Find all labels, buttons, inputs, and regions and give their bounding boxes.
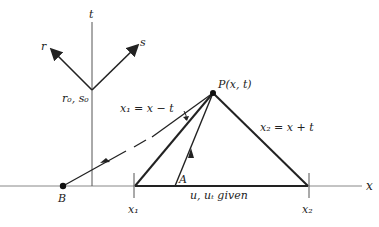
- s-direction-arrow: [92, 46, 137, 90]
- right-characteristic-label: x₂ = x + t: [260, 121, 314, 134]
- left-characteristic-label: x₁ = x − t: [120, 102, 174, 115]
- point-p: [210, 90, 216, 96]
- r-label: r: [41, 40, 47, 53]
- angle-arrow-icon: [183, 116, 189, 121]
- point-b: [60, 183, 66, 189]
- characteristics-diagram: x t r s r₀, s₀ x₁ x₂ A B P(x, t) x₁ = x …: [0, 0, 379, 227]
- point-a-label: A: [178, 173, 187, 186]
- t-axis-label: t: [89, 8, 94, 21]
- point-p-label: P(x, t): [217, 78, 252, 91]
- right-characteristic-line: [213, 93, 308, 186]
- x2-label: x₂: [302, 203, 313, 216]
- s-label: s: [140, 36, 146, 49]
- interval-label: u, uₜ given: [190, 189, 248, 202]
- b-to-p-line-lower: [63, 151, 126, 186]
- point-b-label: B: [57, 192, 66, 205]
- x-axis-label: x: [366, 179, 373, 193]
- r0-s0-label: r₀, s₀: [62, 92, 89, 105]
- b-line-arrow-icon: [100, 158, 110, 163]
- b-to-p-line-dash: [134, 140, 146, 147]
- x1-label: x₁: [128, 203, 139, 216]
- r-direction-arrow: [52, 50, 92, 90]
